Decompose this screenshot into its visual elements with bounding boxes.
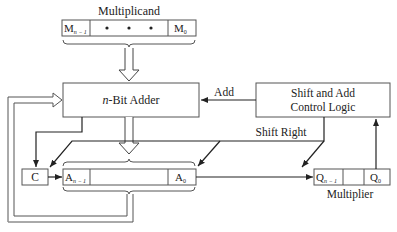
control-logic-line1: Shift and Add (291, 87, 355, 99)
multiplier-label: Multiplier (327, 188, 374, 201)
control-logic-line2: Control Logic (291, 101, 356, 114)
carry-label: C (31, 171, 39, 183)
add-signal-label: Add (214, 86, 234, 98)
feedback-to-adder-arrow-icon (8, 93, 62, 222)
carry-out-arrow (36, 117, 82, 167)
multiplicand-brace (63, 40, 195, 47)
adder-to-accumulator-arrow-icon (119, 117, 139, 154)
feedback-outer-line (8, 194, 133, 222)
accumulator-register: An − 1 A0 (63, 169, 196, 185)
adder-label: n-Bit Adder (103, 93, 160, 107)
multiplicand-to-adder-arrow-icon (119, 48, 139, 81)
dot-icon (149, 26, 152, 29)
multiplicand-label: Multiplicand (98, 4, 160, 18)
multiplicand-register: Mn − 1 M0 (62, 20, 196, 36)
accumulator-top-brace (63, 159, 195, 166)
multiplier-diagram: Multiplicand Mn − 1 M0 n-Bit Adder Shift… (0, 0, 397, 232)
dot-icon (105, 26, 108, 29)
dot-icon (127, 26, 130, 29)
shift-right-to-carry-arrow (50, 117, 324, 167)
multiplier-register: Qn − 1 Q0 (314, 169, 390, 185)
shift-right-label: Shift Right (256, 126, 308, 139)
accumulator-bottom-brace (63, 187, 195, 194)
shift-right-to-multiplier-arrow (302, 141, 324, 167)
shift-right-to-accumulator-arrow (198, 141, 220, 166)
feedback-inner-line (14, 194, 127, 216)
